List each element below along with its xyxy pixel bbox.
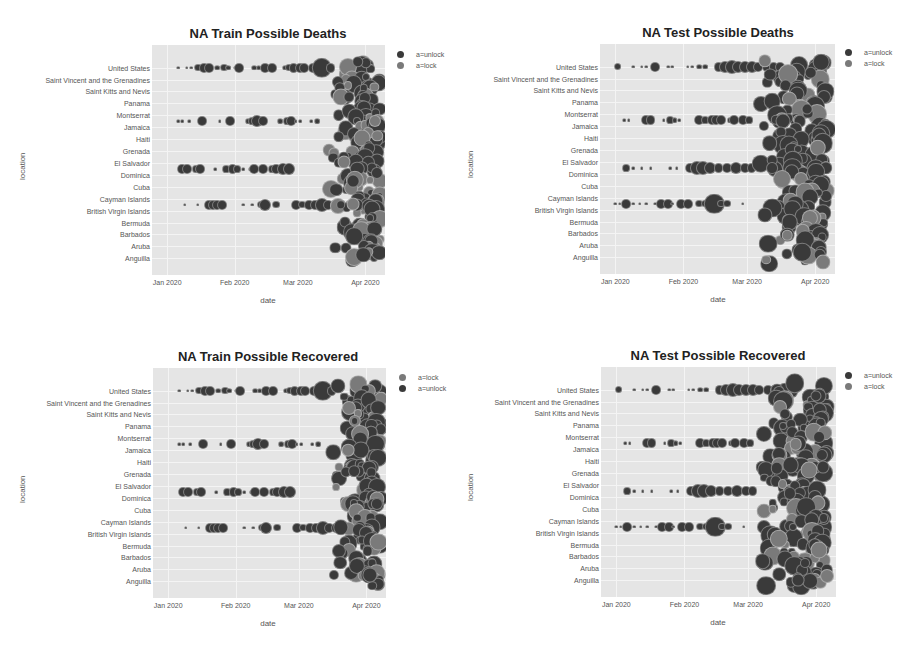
data-bubble[interactable]: [697, 387, 703, 393]
data-bubble[interactable]: [348, 466, 360, 478]
data-bubble[interactable]: [316, 441, 322, 447]
data-bubble[interactable]: [724, 523, 732, 531]
data-bubble[interactable]: [298, 119, 302, 123]
legend-item[interactable]: a=lock: [845, 58, 892, 69]
data-bubble[interactable]: [259, 439, 269, 449]
data-bubble[interactable]: [251, 526, 255, 530]
data-bubble[interactable]: [632, 489, 636, 493]
data-bubble[interactable]: [315, 118, 321, 124]
data-bubble[interactable]: [615, 525, 619, 529]
data-bubble[interactable]: [676, 489, 680, 493]
legend-item[interactable]: a=lock: [397, 60, 444, 71]
data-bubble[interactable]: [259, 199, 271, 211]
legend[interactable]: a=unlocka=lock: [845, 47, 892, 69]
data-bubble[interactable]: [716, 115, 726, 125]
data-bubble[interactable]: [645, 525, 649, 529]
data-bubble[interactable]: [342, 444, 355, 457]
data-bubble[interactable]: [690, 65, 694, 69]
data-bubble[interactable]: [816, 254, 831, 269]
data-bubble[interactable]: [621, 199, 631, 209]
data-bubble[interactable]: [627, 118, 631, 122]
legend-item[interactable]: a=unlock: [397, 49, 444, 60]
data-bubble[interactable]: [294, 119, 298, 123]
data-bubble[interactable]: [792, 574, 805, 587]
data-bubble[interactable]: [243, 490, 247, 494]
data-bubble[interactable]: [644, 202, 648, 206]
data-bubble[interactable]: [761, 255, 771, 265]
legend[interactable]: a=locka=unlock: [399, 372, 446, 394]
data-bubble[interactable]: [801, 461, 818, 478]
data-bubble[interactable]: [671, 65, 675, 69]
data-bubble[interactable]: [779, 422, 787, 430]
data-bubble[interactable]: [226, 439, 236, 449]
data-bubble[interactable]: [213, 167, 217, 171]
data-bubble[interactable]: [662, 118, 666, 122]
data-bubble[interactable]: [696, 64, 702, 70]
data-bubble[interactable]: [746, 439, 754, 447]
data-bubble[interactable]: [641, 388, 645, 392]
data-bubble[interactable]: [190, 389, 194, 393]
legend-item[interactable]: a=unlock: [845, 370, 892, 381]
data-bubble[interactable]: [651, 385, 661, 395]
plot-area[interactable]: [601, 367, 836, 597]
data-bubble[interactable]: [351, 417, 359, 425]
data-bubble[interactable]: [672, 525, 676, 529]
data-bubble[interactable]: [176, 66, 180, 70]
data-bubble[interactable]: [182, 442, 186, 446]
data-bubble[interactable]: [615, 386, 623, 394]
data-bubble[interactable]: [176, 119, 180, 123]
data-bubble[interactable]: [756, 576, 776, 596]
data-bubble[interactable]: [181, 119, 185, 123]
data-bubble[interactable]: [259, 487, 269, 497]
data-bubble[interactable]: [614, 202, 618, 206]
data-bubble[interactable]: [234, 488, 242, 496]
legend-item[interactable]: a=unlock: [399, 383, 446, 394]
legend[interactable]: a=unlocka=lock: [845, 370, 892, 392]
data-bubble[interactable]: [355, 247, 370, 262]
data-bubble[interactable]: [631, 202, 635, 206]
data-bubble[interactable]: [768, 505, 777, 514]
plot-area[interactable]: [600, 44, 835, 274]
data-bubble[interactable]: [638, 202, 642, 206]
data-bubble[interactable]: [672, 388, 676, 392]
data-bubble[interactable]: [337, 155, 350, 168]
data-bubble[interactable]: [691, 388, 695, 392]
data-bubble[interactable]: [810, 542, 827, 559]
data-bubble[interactable]: [187, 119, 191, 123]
data-bubble[interactable]: [217, 200, 227, 210]
data-bubble[interactable]: [800, 558, 810, 568]
data-bubble[interactable]: [197, 116, 207, 126]
data-bubble[interactable]: [759, 234, 778, 253]
data-bubble[interactable]: [644, 65, 648, 69]
data-bubble[interactable]: [326, 444, 341, 459]
data-bubble[interactable]: [666, 65, 670, 69]
data-bubble[interactable]: [641, 489, 645, 493]
data-bubble[interactable]: [371, 245, 385, 261]
data-bubble[interactable]: [639, 525, 643, 529]
data-bubble[interactable]: [817, 461, 830, 474]
data-bubble[interactable]: [742, 525, 746, 529]
data-bubble[interactable]: [667, 388, 671, 392]
data-bubble[interactable]: [204, 63, 214, 73]
legend[interactable]: a=unlocka=lock: [397, 49, 444, 71]
legend-item[interactable]: a=lock: [845, 381, 892, 392]
data-bubble[interactable]: [332, 483, 340, 491]
data-bubble[interactable]: [663, 441, 667, 445]
data-bubble[interactable]: [226, 388, 232, 394]
data-bubble[interactable]: [273, 524, 281, 532]
data-bubble[interactable]: [185, 66, 189, 70]
data-bubble[interactable]: [757, 207, 772, 222]
data-bubble[interactable]: [622, 522, 632, 532]
data-bubble[interactable]: [683, 199, 693, 209]
plot-area[interactable]: [152, 45, 385, 275]
plot-area[interactable]: [153, 368, 386, 598]
data-bubble[interactable]: [622, 118, 626, 122]
data-bubble[interactable]: [745, 116, 753, 124]
data-bubble[interactable]: [177, 442, 181, 446]
data-bubble[interactable]: [329, 570, 339, 580]
data-bubble[interactable]: [309, 119, 313, 123]
data-bubble[interactable]: [790, 438, 803, 451]
data-bubble[interactable]: [198, 439, 208, 449]
data-bubble[interactable]: [669, 489, 673, 493]
data-bubble[interactable]: [645, 388, 649, 392]
